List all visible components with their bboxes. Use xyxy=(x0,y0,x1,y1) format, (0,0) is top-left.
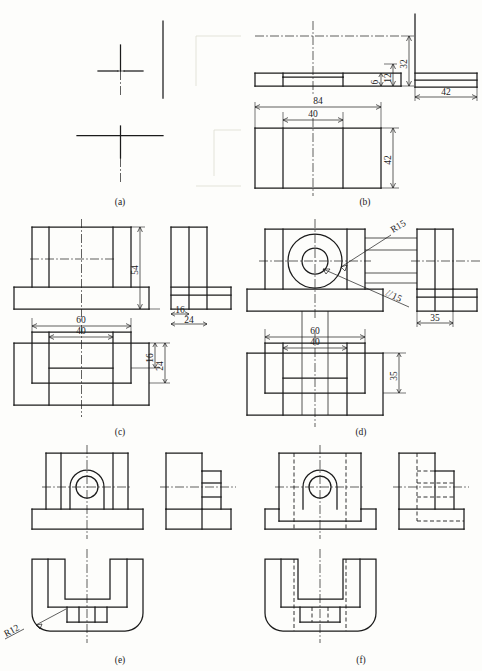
panel-d-top-dims: 60 40 35 xyxy=(265,326,406,393)
centre-cross-lower xyxy=(77,126,163,184)
panel-b-dim-40: 40 xyxy=(308,109,318,119)
panel-a-drawing: (a) xyxy=(0,0,241,210)
panel-f-top-view xyxy=(265,549,376,643)
panel-a-label: (a) xyxy=(115,197,126,208)
panel-d-side-view: 35 xyxy=(411,229,481,327)
panel-c-dim-54: 54 xyxy=(130,265,140,275)
panel-d-projection-lines xyxy=(365,238,417,283)
panel-d-callout-R15: R15 xyxy=(389,218,408,235)
panel-c-dim-24-side: 24 xyxy=(184,315,194,325)
panel-d-dim-40: 40 xyxy=(310,337,320,347)
panel-b-vertical-dims: 32 12 6 xyxy=(370,36,414,86)
panel-c-dim-54-group: 54 xyxy=(130,227,160,309)
panel-e-callout-R12-group: R12 xyxy=(2,609,66,639)
panel-b-dim-84: 84 xyxy=(313,96,323,106)
panel-d-callouts: R15 ⌰15 xyxy=(323,218,409,307)
panel-c-side-view: 16 24 xyxy=(171,227,231,326)
panel-c-top-view xyxy=(14,325,149,417)
panel-e-label: (e) xyxy=(115,655,126,666)
panel-d-dim-35-side: 35 xyxy=(430,313,440,323)
panel-c-dim-60: 60 xyxy=(76,315,86,325)
panel-e-callout-R12: R12 xyxy=(2,622,21,638)
panel-e-front-view xyxy=(32,445,143,539)
panel-b-dim-32: 32 xyxy=(399,59,409,69)
panel-b-dim-42-front: 42 xyxy=(383,155,393,165)
panel-b-drawing: 32 12 6 xyxy=(241,0,482,210)
panel-c-front-view xyxy=(14,219,149,317)
panel-c-drawing: 54 16 24 xyxy=(0,213,241,441)
panel-d: R15 ⌰15 xyxy=(241,213,482,441)
panel-b-label: (b) xyxy=(359,197,370,208)
panel-f-label: (f) xyxy=(356,655,366,666)
panel-d-dim-35-top: 35 xyxy=(389,371,399,381)
panel-c-dim-24-top: 24 xyxy=(155,361,165,371)
panel-d-front-view xyxy=(247,219,383,319)
panel-b-side-view: 42 xyxy=(415,14,477,101)
panel-f-front-view xyxy=(265,445,376,539)
panel-e-drawing: R12 (e) xyxy=(0,441,241,671)
background-ghost-a xyxy=(196,36,241,186)
panel-e-side-view xyxy=(160,453,236,529)
panel-d-callout-D15: ⌰15 xyxy=(384,288,403,304)
panel-e-top-view xyxy=(32,549,143,643)
panel-f-drawing: (f) xyxy=(241,441,482,671)
centre-cross-upper xyxy=(98,45,143,96)
panel-b-horizontal-dims: 84 40 42 xyxy=(255,96,399,188)
panel-d-drawing: R15 ⌰15 xyxy=(241,213,482,441)
panel-e: R12 (e) xyxy=(0,441,241,671)
panel-b-dim-12: 12 xyxy=(383,73,393,83)
panel-c: 54 16 24 xyxy=(0,213,241,441)
panel-b-front-view xyxy=(255,118,381,196)
panel-b: 32 12 6 xyxy=(241,0,482,210)
panel-d-label: (d) xyxy=(355,427,366,438)
panel-f-side-view xyxy=(393,453,469,529)
panel-c-dim-40: 40 xyxy=(76,326,86,336)
panel-b-dim-6: 6 xyxy=(370,79,380,84)
panel-c-label: (c) xyxy=(115,427,126,438)
panel-f: (f) xyxy=(241,441,482,671)
panel-c-dim-16-side: 16 xyxy=(175,305,185,315)
panel-b-dim-42-side: 42 xyxy=(441,87,451,97)
panel-d-dim-60: 60 xyxy=(310,326,320,336)
drawing-sheet: (a) xyxy=(0,0,482,671)
panel-c-dim-16-top: 16 xyxy=(145,353,155,363)
panel-a: (a) xyxy=(0,0,241,210)
